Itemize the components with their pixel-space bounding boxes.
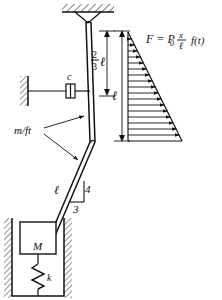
dim-two-thirds-ell-label: 2 3 ℓ — [91, 49, 106, 72]
spring-coil — [32, 264, 44, 289]
formula-subscript: 0 — [170, 39, 174, 48]
load-formula: F = P 0 x ℓ f(t) — [145, 30, 205, 51]
dim-ell-label: ℓ — [112, 88, 118, 103]
member-length-label: ℓ — [54, 183, 59, 197]
leader-to-vertical-beam — [44, 116, 84, 128]
slope-run-label: 3 — [72, 203, 79, 215]
dim-arrow-a-bottom — [104, 89, 110, 96]
load-hypotenuse — [128, 32, 182, 141]
formula-time-function: f(t) — [191, 34, 205, 47]
fraction-ell-symbol: ℓ — [100, 54, 106, 69]
beam-edge-right — [91, 22, 95, 142]
spring-label: k — [47, 272, 52, 283]
fraction-denominator: 3 — [92, 61, 97, 72]
channel-left-hatch — [4, 218, 12, 298]
slope-rise-label: 4 — [85, 183, 91, 195]
distributed-load — [128, 32, 182, 141]
damper-label: c — [67, 71, 72, 82]
formula-denominator: ℓ — [179, 40, 183, 51]
engineering-diagram: 4 3 ℓ c m/ft 2 3 ℓ ℓ — [0, 0, 222, 300]
beam-edge-left — [86, 22, 90, 142]
vertical-beam — [86, 22, 95, 142]
damper-assembly: c — [20, 71, 90, 106]
formula-numerator: x — [178, 30, 183, 40]
spring-mass-assembly: M k — [4, 218, 72, 298]
channel-right-hatch — [64, 218, 72, 298]
leader-to-inclined-beam — [44, 134, 78, 160]
mass-per-length-label: m/ft — [14, 124, 32, 136]
fraction-numerator: 2 — [92, 49, 97, 60]
mass-label: M — [32, 240, 43, 252]
ceiling-hatch — [62, 4, 114, 12]
ceiling-support — [62, 4, 114, 23]
mass-per-length-leaders — [44, 116, 84, 160]
diagram-canvas: 4 3 ℓ c m/ft 2 3 ℓ ℓ — [0, 0, 222, 300]
damper-wall-hatch — [20, 76, 28, 106]
